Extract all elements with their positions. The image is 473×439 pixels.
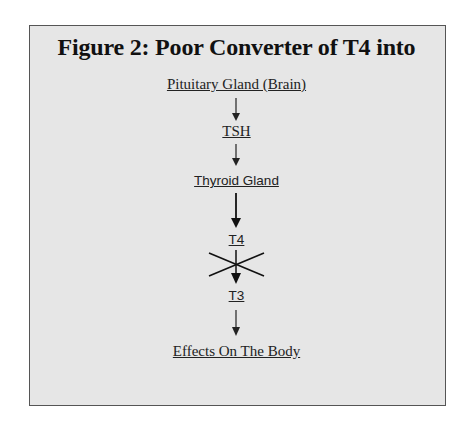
arrow-pituitary-to-tsh: [232, 98, 240, 121]
arrow-tsh-to-thyroid: [232, 144, 240, 166]
arrow-thyroid-to-t4: [231, 193, 241, 228]
arrow-t3-to-effects: [232, 310, 240, 336]
flow-arrows: [0, 0, 473, 439]
